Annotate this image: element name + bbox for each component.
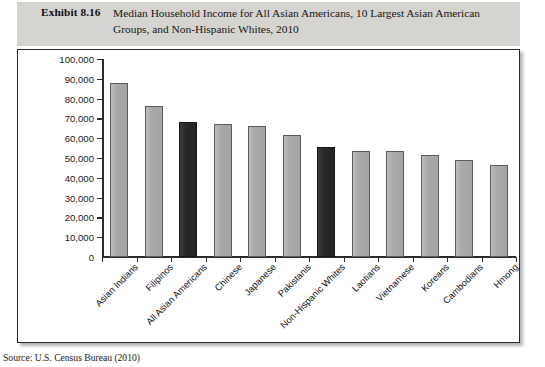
bar-cambodians <box>455 160 473 257</box>
y-axis-tick-label: 40,000 <box>30 172 94 183</box>
source-note: Source: U.S. Census Bureau (2010) <box>3 352 140 363</box>
y-axis-tick-label: 0 <box>30 252 94 263</box>
bar-asian-indians <box>110 83 128 257</box>
bar-non-hispanic-whites <box>317 147 335 257</box>
bar-vietnamese <box>386 151 404 257</box>
y-axis-tick-label: 50,000 <box>30 153 94 164</box>
exhibit-caption-band: Exhibit 8.16Median Household Income for … <box>17 2 520 46</box>
y-axis-tick-label: 80,000 <box>30 93 94 104</box>
caption-inner: Exhibit 8.16Median Household Income for … <box>41 6 515 37</box>
y-axis-tick-label: 100,000 <box>30 54 94 65</box>
x-axis-labels: Asian IndiansFilipinosAll Asian American… <box>102 262 516 340</box>
chart-frame: 010,00020,00030,00040,00050,00060,00070,… <box>17 49 520 343</box>
bar-laotians <box>352 151 370 257</box>
bar-chart-plot: 010,00020,00030,00040,00050,00060,00070,… <box>18 50 519 342</box>
y-axis-tick-label: 30,000 <box>30 192 94 203</box>
bar-series <box>102 59 516 257</box>
y-axis-tick-label: 70,000 <box>30 113 94 124</box>
bar-all-asian-americans <box>179 122 197 257</box>
bar-chinese <box>214 124 232 257</box>
y-axis-labels: 010,00020,00030,00040,00050,00060,00070,… <box>30 50 94 342</box>
y-axis-tick-label: 10,000 <box>30 232 94 243</box>
bar-hmong <box>490 165 508 257</box>
x-axis-tick-mark <box>516 257 517 262</box>
exhibit-number-label: Exhibit 8.16 <box>41 6 113 18</box>
bar-filipinos <box>145 106 163 257</box>
bar-koreans <box>421 155 439 257</box>
y-axis-tick-label: 90,000 <box>30 73 94 84</box>
y-axis-tick-label: 60,000 <box>30 133 94 144</box>
bar-pakistanis <box>283 135 301 257</box>
y-axis-tick-label: 20,000 <box>30 212 94 223</box>
exhibit-caption-text: Median Household Income for All Asian Am… <box>113 6 509 37</box>
bar-japanese <box>248 126 266 257</box>
